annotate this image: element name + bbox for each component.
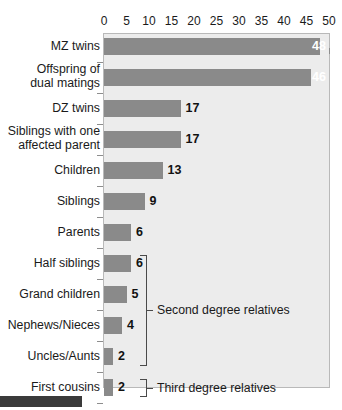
bar xyxy=(104,286,127,303)
bar-value-label: 2 xyxy=(118,380,125,395)
group-bracket xyxy=(140,255,147,366)
bar xyxy=(104,379,113,396)
bar-value-label: 9 xyxy=(150,194,157,209)
bar xyxy=(104,255,131,272)
x-tick-label: 50 xyxy=(322,14,335,28)
bar-row: Uncles/Aunts2 xyxy=(0,348,342,365)
y-tick-mark xyxy=(97,279,103,280)
bar-row: Offspring of dual matings46 xyxy=(0,69,342,86)
bar xyxy=(104,100,181,117)
bar-value-label: 2 xyxy=(118,349,125,364)
x-axis: 05101520253035404550 xyxy=(103,14,331,33)
x-tick-label: 5 xyxy=(123,14,130,28)
bar-row: Half siblings6 xyxy=(0,255,342,272)
bar-value-label: 17 xyxy=(186,132,200,147)
x-tick-label: 35 xyxy=(255,14,268,28)
bar-category-label: Offspring of dual matings xyxy=(0,62,100,90)
bar xyxy=(104,131,181,148)
bar-value-label: 17 xyxy=(186,101,200,116)
y-tick-mark xyxy=(97,310,103,311)
bar xyxy=(104,348,113,365)
x-tick-label: 0 xyxy=(101,14,108,28)
bar-category-label: MZ twins xyxy=(0,39,100,53)
y-tick-mark xyxy=(97,93,103,94)
bar-category-label: Uncles/Aunts xyxy=(0,349,100,363)
y-tick-mark xyxy=(97,372,103,373)
y-tick-mark xyxy=(97,248,103,249)
x-tick-label: 10 xyxy=(142,14,155,28)
bar-value-label: 46 xyxy=(312,70,326,85)
bar-row: Parents6 xyxy=(0,224,342,241)
y-tick-mark xyxy=(97,155,103,156)
group-bracket-label: Third degree relatives xyxy=(157,381,276,395)
bar xyxy=(104,38,320,55)
group-bracket-label: Second degree relatives xyxy=(157,303,290,317)
bar-value-label: 48 xyxy=(312,39,326,54)
bar-category-label: Grand children xyxy=(0,287,100,301)
bar-row: Siblings9 xyxy=(0,193,342,210)
bar-row: Nephews/Nieces4 xyxy=(0,317,342,334)
bar-category-label: Siblings with one affected parent xyxy=(0,124,100,152)
bar-row: Siblings with one affected parent17 xyxy=(0,131,342,148)
bar-row: DZ twins17 xyxy=(0,100,342,117)
bar-value-label: 6 xyxy=(136,225,143,240)
group-bracket xyxy=(140,379,147,397)
bar-category-label: Nephews/Nieces xyxy=(0,318,100,332)
bar-category-label: Parents xyxy=(0,225,100,239)
x-tick-label: 30 xyxy=(232,14,245,28)
bracket-stem xyxy=(147,388,153,389)
bar-value-label: 4 xyxy=(127,318,134,333)
bar xyxy=(104,193,145,210)
footer-strip xyxy=(0,396,82,407)
y-tick-mark xyxy=(97,217,103,218)
x-tick-label: 20 xyxy=(187,14,200,28)
bar-value-label: 13 xyxy=(168,163,182,178)
bracket-stem xyxy=(147,310,153,311)
bar-category-label: First cousins xyxy=(0,380,100,394)
bar-category-label: Siblings xyxy=(0,194,100,208)
y-tick-mark xyxy=(97,341,103,342)
x-tick-label: 45 xyxy=(300,14,313,28)
bar xyxy=(104,69,311,86)
bar xyxy=(104,162,163,179)
plot-area xyxy=(103,33,330,388)
y-tick-mark xyxy=(97,186,103,187)
bar-row: Grand children5 xyxy=(0,286,342,303)
bar-category-label: Children xyxy=(0,163,100,177)
bar-row: Children13 xyxy=(0,162,342,179)
bar xyxy=(104,224,131,241)
x-tick-label: 40 xyxy=(277,14,290,28)
bar-chart: 05101520253035404550 MZ twins48Offspring… xyxy=(0,0,342,410)
bar xyxy=(104,317,122,334)
x-tick-label: 25 xyxy=(210,14,223,28)
bar-value-label: 5 xyxy=(132,287,139,302)
y-tick-mark xyxy=(97,403,103,404)
x-tick-label: 15 xyxy=(165,14,178,28)
bar-row: MZ twins48 xyxy=(0,38,342,55)
bar-category-label: Half siblings xyxy=(0,256,100,270)
bar-category-label: DZ twins xyxy=(0,101,100,115)
